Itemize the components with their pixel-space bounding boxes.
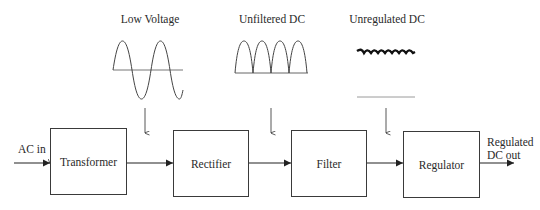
block-filter: Filter (291, 130, 367, 197)
label-unfiltered-dc: Unfiltered DC (239, 13, 305, 26)
block-regulator: Regulator (403, 131, 480, 198)
input-label: AC in (18, 143, 46, 156)
block-transformer: Transformer (50, 128, 127, 195)
block-label: Rectifier (191, 158, 231, 170)
block-label: Regulator (419, 159, 464, 171)
output-label-line2: DC out (487, 149, 521, 162)
ripple-waveform (357, 50, 415, 53)
block-label: Transformer (60, 156, 117, 168)
label-low-voltage: Low Voltage (121, 13, 180, 26)
block-rectifier: Rectifier (173, 130, 249, 197)
output-label-line1: Regulated (487, 136, 534, 149)
label-unregulated-dc: Unregulated DC (349, 13, 425, 26)
sine-waveform (113, 41, 183, 99)
block-label: Filter (317, 158, 342, 170)
rectified-waveform (235, 41, 308, 73)
